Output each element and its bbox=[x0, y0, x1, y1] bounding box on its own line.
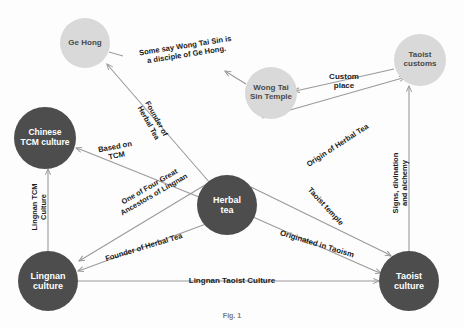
edge-arrowhead bbox=[225, 71, 233, 76]
edge-label-lingnan-culture-to-taoist-culture: Lingnan Taoist Culture bbox=[189, 276, 276, 285]
edge-arrowhead bbox=[78, 269, 84, 271]
node-lingnan-culture[interactable] bbox=[18, 251, 78, 311]
edge-label-taoist-customs-to-wts-temple: Custom place bbox=[329, 72, 359, 91]
edge-label-taoist-culture-to-taoist-customs: Signs, divination and alchemy bbox=[392, 152, 410, 215]
node-taoist-culture[interactable] bbox=[379, 251, 439, 311]
edge-arrowhead bbox=[386, 253, 391, 256]
node-wong-tai-sin-temple[interactable] bbox=[245, 67, 297, 119]
edge-label-lingnan-culture-to-chinese-tcm: Lingnan TCM Culture bbox=[31, 184, 48, 231]
edge-line bbox=[109, 52, 123, 56]
diagram-canvas: Ge HongWong Tai Sin TempleTaoist customs… bbox=[0, 0, 464, 328]
edge-arrowhead bbox=[76, 148, 82, 150]
node-chinese-tcm-culture[interactable] bbox=[14, 107, 76, 169]
node-herbal-tea[interactable] bbox=[197, 175, 257, 235]
edge-line bbox=[233, 76, 246, 84]
node-ge-hong[interactable] bbox=[60, 18, 110, 68]
figure-caption: Fig. 1 bbox=[223, 312, 241, 319]
edge-arrowhead bbox=[375, 271, 381, 273]
edge-arrowhead bbox=[107, 64, 112, 70]
edge-arrowhead bbox=[79, 258, 84, 261]
node-taoist-customs[interactable] bbox=[394, 34, 446, 86]
node-circles bbox=[14, 18, 446, 311]
